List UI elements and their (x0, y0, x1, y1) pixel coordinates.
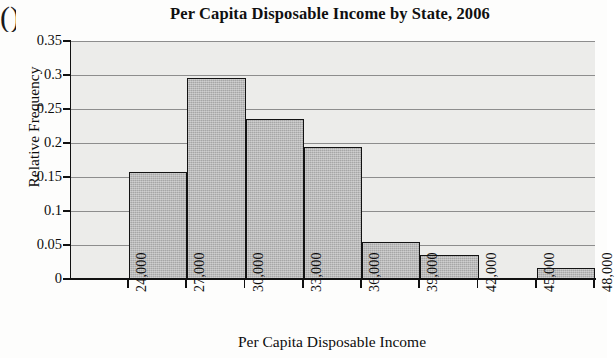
x-axis-tick-label: 36,000 (367, 252, 383, 292)
y-axis-tick (63, 278, 71, 280)
plot-inner (71, 41, 595, 279)
histogram-bar (187, 78, 245, 279)
x-axis-tick-label: 42,000 (484, 252, 500, 292)
x-axis-tick-label: 30,000 (251, 252, 267, 292)
x-axis-tick-label: 39,000 (425, 252, 441, 292)
gridline (71, 41, 595, 42)
y-axis-tick (63, 142, 71, 144)
x-axis-tick (185, 279, 187, 288)
y-axis-title: Relative Frequency (25, 27, 43, 227)
y-axis-tick-label: 0.05 (20, 236, 62, 253)
x-axis-tick (302, 279, 304, 288)
gridline (71, 75, 595, 76)
y-axis-tick (63, 40, 71, 42)
x-axis-tick-label: 27,000 (192, 252, 208, 292)
y-axis-tick (63, 210, 71, 212)
x-axis-tick (477, 279, 479, 288)
gridline (71, 143, 595, 144)
x-axis-tick (593, 279, 595, 288)
x-axis-tick (244, 279, 246, 288)
x-axis-tick-label: 48,000 (600, 252, 616, 292)
x-axis-tick-label: 24,000 (134, 252, 150, 292)
y-axis-tick (63, 176, 71, 178)
y-axis-tick-label: 0 (20, 270, 62, 287)
x-axis-title: Per Capita Disposable Income (70, 333, 594, 351)
x-axis-tick (360, 279, 362, 288)
y-axis-tick (63, 74, 71, 76)
y-axis-tick (63, 244, 71, 246)
x-axis-tick (535, 279, 537, 288)
plot-area (70, 41, 595, 279)
gridline (71, 109, 595, 110)
x-axis-tick-label: 45,000 (542, 252, 558, 292)
x-axis-tick (418, 279, 420, 288)
chart-title: Per Capita Disposable Income by State, 2… (90, 4, 570, 24)
x-axis-tick (127, 279, 129, 288)
y-axis-tick (63, 108, 71, 110)
x-axis-tick-label: 33,000 (309, 252, 325, 292)
